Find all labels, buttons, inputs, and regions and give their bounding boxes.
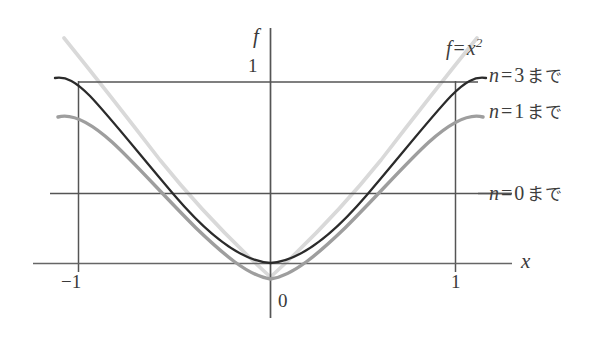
n0-label-num: 0 — [514, 182, 524, 204]
n1-label-eq: = — [499, 100, 514, 122]
figure-root: f x 1 −1 1 0 f=x2 n=3まで n=1まで n=0まで — [0, 0, 615, 337]
curve-label-n0: n=0まで — [489, 183, 562, 203]
x-axis-label: x — [521, 251, 530, 272]
curve-label-n1: n=1まで — [489, 101, 562, 121]
n0-label-suffix: まで — [524, 184, 562, 204]
origin-label: 0 — [278, 291, 288, 310]
target-label-eq: = — [452, 37, 467, 59]
curve-label-target: f=x2 — [446, 36, 482, 58]
x-tick-label-1: 1 — [451, 272, 461, 291]
n3-label-eq: = — [499, 64, 514, 86]
n3-label-suffix: まで — [524, 66, 562, 86]
curve-label-n3: n=3まで — [489, 65, 562, 85]
n0-label-eq: = — [499, 182, 514, 204]
target-label-var: f — [446, 37, 452, 59]
n3-label-num: 3 — [514, 64, 524, 86]
target-label-exponent: 2 — [476, 35, 483, 50]
x-tick-label-minus-1: −1 — [61, 272, 81, 291]
n1-label-var: n — [489, 100, 499, 122]
f-axis-label: f — [253, 26, 259, 47]
y-tick-label-1: 1 — [248, 56, 258, 75]
n1-label-num: 1 — [514, 100, 524, 122]
n3-label-var: n — [489, 64, 499, 86]
plot-canvas — [0, 0, 615, 337]
n0-label-var: n — [489, 182, 499, 204]
target-label-expr: x — [467, 37, 476, 59]
n1-label-suffix: まで — [524, 102, 562, 122]
